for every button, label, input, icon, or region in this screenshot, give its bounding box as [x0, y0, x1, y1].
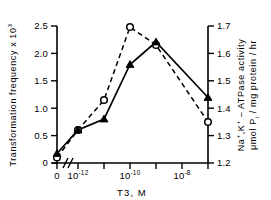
left-axis-title: Transformation frequency x 103	[6, 23, 18, 166]
left-ticklabel-0: 0	[43, 157, 48, 168]
right-ticklabel-2: 1.4	[217, 103, 231, 114]
x-axis-title: T3, M	[117, 187, 147, 198]
series-filled-triangle-line	[57, 42, 208, 154]
x-ticklabel-3: 10-8	[173, 169, 190, 181]
right-ticklabel-3: 1.5	[217, 75, 231, 86]
right-ticklabel-0: 1.2	[217, 157, 231, 168]
x-ticklabel-0: 0	[54, 170, 59, 181]
left-ticklabel-1: 0.5	[34, 130, 48, 141]
chart-plot-area: 0 0.5 1.0 1.5 2.0 2.5 1.2 1.3 1.4 1.5 1.…	[0, 0, 271, 200]
series-open-circle-line	[57, 27, 208, 158]
data-point-open-3	[101, 97, 108, 104]
left-ticklabel-3: 1.5	[34, 75, 48, 86]
right-ticklabel-5: 1.7	[217, 20, 231, 31]
x-ticklabel-2: 10-10	[120, 169, 141, 181]
left-ticklabel-2: 1.0	[34, 103, 48, 114]
right-ticklabel-1: 1.3	[217, 130, 231, 141]
left-ticklabel-5: 2.5	[34, 20, 48, 31]
data-point-open-6	[205, 119, 212, 126]
data-point-filled-3	[100, 115, 108, 122]
data-point-filled-5	[152, 38, 160, 45]
data-point-open-4	[127, 24, 134, 31]
chart-figure: 0 0.5 1.0 1.5 2.0 2.5 1.2 1.3 1.4 1.5 1.…	[0, 0, 271, 200]
right-axis-title-line1: Na+,K+ – ATPase activity	[234, 39, 246, 152]
x-ticklabel-1: 10-12	[68, 169, 89, 181]
left-ticklabel-4: 2.0	[34, 48, 48, 59]
right-axis-title-line2: μmol Pi / mg protein / hr	[248, 40, 260, 150]
right-ticklabel-4: 1.6	[217, 48, 231, 59]
